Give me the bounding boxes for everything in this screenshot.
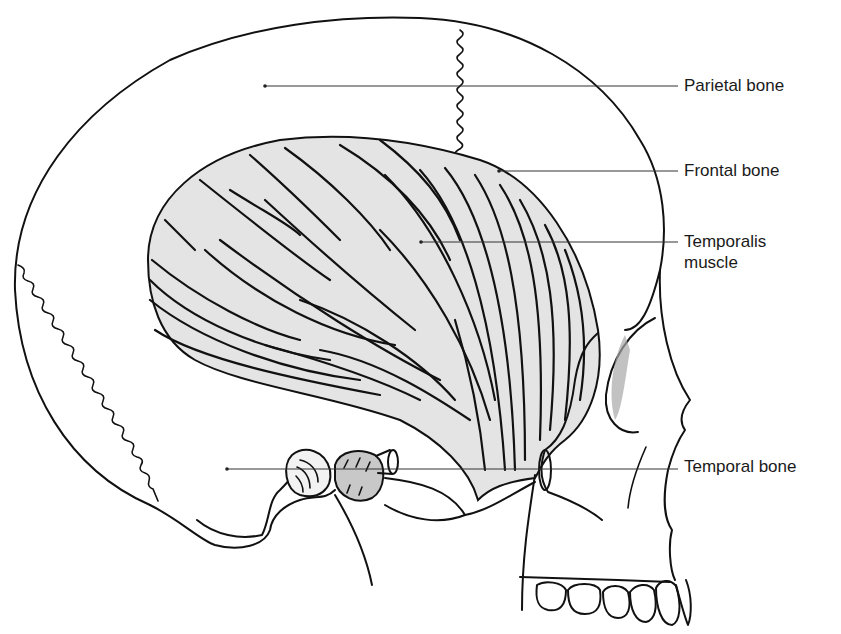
orbit-shadow: [612, 335, 630, 420]
label-frontal-bone: Frontal bone: [684, 160, 779, 181]
mastoid-process: [197, 460, 294, 537]
mandibular-condyle: [335, 450, 398, 501]
teeth: [520, 577, 691, 625]
mandible-ramus-notch: [335, 495, 372, 585]
label-parietal-bone: Parietal bone: [684, 75, 784, 96]
occipital-base: [150, 490, 335, 548]
nose-profile: [660, 270, 690, 580]
external-acoustic-meatus: [286, 450, 330, 496]
zygomatic-arch: [385, 478, 465, 520]
maxilla-line: [628, 447, 646, 508]
label-temporalis-muscle: Temporalis muscle: [684, 231, 766, 273]
mandible-ramus: [522, 475, 535, 610]
coronal-suture: [450, 30, 463, 170]
lambdoid-suture: [18, 265, 158, 501]
label-temporal-bone: Temporal bone: [684, 456, 796, 477]
